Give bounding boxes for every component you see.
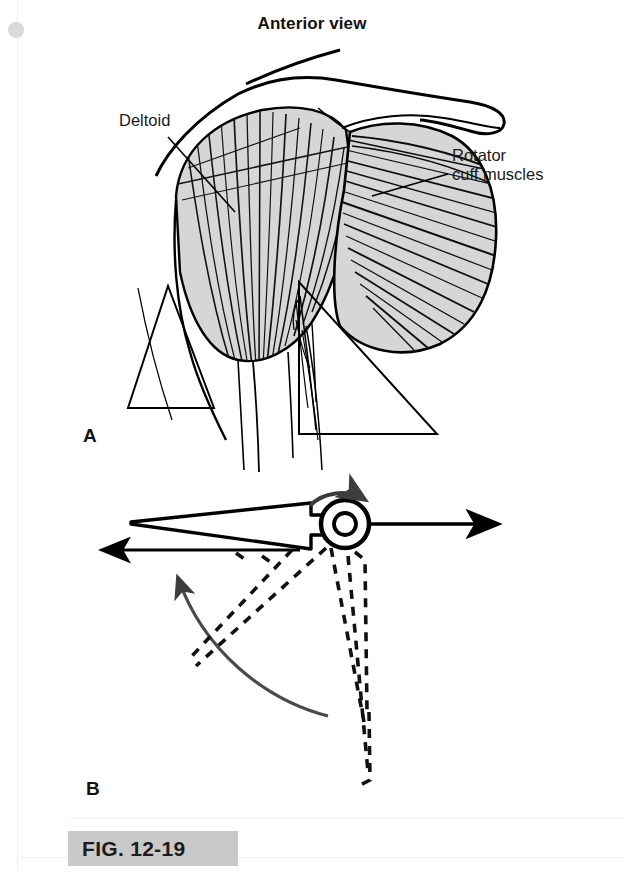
figure-caption-text: FIG. 12-19 — [68, 837, 185, 861]
label-rotator-cuff: Rotator cuff muscles — [452, 146, 543, 184]
panel-label-b: B — [86, 778, 100, 800]
joint-humeral-head — [321, 500, 369, 548]
abduction-arc-arrow — [178, 578, 328, 716]
humerus-wedge — [131, 503, 327, 549]
label-deltoid: Deltoid — [119, 111, 170, 130]
figure-caption-chip: FIG. 12-19 — [68, 831, 238, 866]
figure-page: Anterior view Deltoid Rotator cuff muscl… — [0, 0, 624, 872]
resting-arm-position — [190, 548, 370, 786]
page-title: Anterior view — [0, 14, 624, 34]
panel-label-a: A — [83, 425, 97, 447]
